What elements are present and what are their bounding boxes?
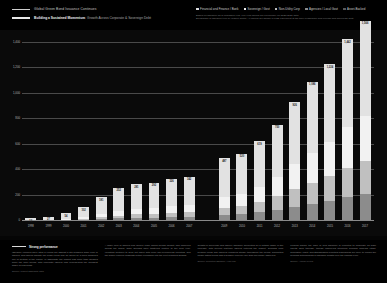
- chart-bar[interactable]: 12: [25, 218, 36, 220]
- chart-bar-segment: [236, 154, 247, 194]
- chart-bar-slot: 2812004: [128, 42, 146, 220]
- footer-column-1: A wider pool of issuers and deeper order…: [105, 244, 191, 272]
- chart-bar[interactable]: 1,086: [307, 82, 318, 220]
- y-axis-tick-label: 600: [15, 142, 20, 146]
- poster-header: Global Green Bond Issuance Continues Bui…: [0, 0, 387, 30]
- x-axis-tick-label: 2012: [274, 225, 280, 228]
- bar-value-label: 326: [169, 180, 173, 183]
- chart-bar[interactable]: 520: [236, 154, 247, 220]
- chart-bar-slot: 6192011: [251, 42, 269, 220]
- chart-bar[interactable]: 1,566: [360, 21, 371, 220]
- chart-bar[interactable]: 926: [289, 102, 300, 220]
- footer-column-2: Growth in sovereign and agency issuance …: [198, 244, 284, 272]
- chart-bar-segment: [219, 158, 230, 197]
- bar-value-label: 102: [81, 209, 85, 212]
- rule-icon: [12, 9, 30, 10]
- header-titles: Global Green Bond Issuance Continues Bui…: [12, 6, 192, 24]
- header-subtitle: Global Green Bond Issuance Continues: [34, 7, 96, 11]
- chart-bar[interactable]: 252: [113, 188, 124, 220]
- chart-bar[interactable]: 487: [219, 158, 230, 220]
- rule-icon: [12, 17, 30, 19]
- chart-bar-segment: [78, 219, 89, 220]
- chart-bar-segment: [254, 141, 265, 186]
- footer-body-text: A wider pool of issuers and deeper order…: [105, 244, 191, 257]
- chart-bar[interactable]: 292: [149, 183, 160, 220]
- chart-bar[interactable]: 750: [272, 125, 283, 220]
- chart-bar[interactable]: 1,442: [342, 39, 353, 220]
- chart-bar-segment: [360, 194, 371, 220]
- x-axis-tick-label: 2011: [257, 225, 263, 228]
- footer-body-text: Looking ahead, the pace of new issuance …: [290, 244, 376, 257]
- chart-bar-segment: [307, 82, 318, 153]
- legend-item-0: Financial and Finance / Bank: [196, 7, 239, 11]
- x-axis-tick-label: 2003: [116, 225, 122, 228]
- bar-value-label: 292: [152, 184, 156, 187]
- header-legend-block: Financial and Finance / BankSovereign / …: [196, 7, 378, 21]
- y-axis-tick-label: 400: [15, 167, 20, 171]
- chart-legend: Financial and Finance / BankSovereign / …: [196, 7, 378, 11]
- chart-bar-slot: 2522003: [110, 42, 128, 220]
- x-axis-tick-label: 2006: [169, 225, 175, 228]
- chart-bar-segment: [360, 116, 371, 161]
- chart-gap: [198, 42, 216, 220]
- chart-bar-segment: [272, 196, 283, 209]
- bar-value-label: 281: [134, 186, 138, 189]
- legend-label: Agencies / Local Govt: [309, 7, 338, 11]
- legend-swatch-icon: [275, 8, 278, 11]
- gridline: [22, 220, 374, 221]
- chart-bar[interactable]: 181: [96, 197, 107, 220]
- chart-bar-segment: [219, 215, 230, 220]
- bar-value-label: 1,086: [309, 83, 316, 86]
- chart-bar-segment: [307, 204, 318, 220]
- chart-bar-segment: [131, 218, 142, 220]
- chart-bar[interactable]: 619: [254, 141, 265, 220]
- y-axis-tick-label: 1,400: [13, 40, 20, 44]
- x-axis-tick-label: 2009: [221, 225, 227, 228]
- bar-value-label: 342: [187, 178, 191, 181]
- chart-bar-segment: [272, 177, 283, 196]
- page-title-suffix: Growth Across Corporate & Sovereign Debt: [87, 16, 151, 20]
- legend-item-2: Non-Utility Corp: [275, 7, 300, 11]
- x-axis-tick-label: 2016: [344, 225, 350, 228]
- bar-value-label: 1,442: [344, 41, 351, 44]
- footer-source-note: Source: Annual review: [290, 260, 376, 262]
- chart-bar-slot: 3262006: [163, 42, 181, 220]
- y-axis-tick-label: 800: [15, 116, 20, 120]
- chart-bar[interactable]: 27: [43, 217, 54, 220]
- chart-bar-slot: 1812002: [92, 42, 110, 220]
- chart-bar[interactable]: 281: [131, 184, 142, 220]
- chart-bar-segment: [96, 219, 107, 220]
- bar-value-label: 54: [65, 215, 68, 218]
- chart-bar-segment: [166, 217, 177, 220]
- bar-value-label: 750: [275, 126, 279, 129]
- chart-bar-slot: 271999: [40, 42, 58, 220]
- legend-swatch-icon: [305, 8, 308, 11]
- x-axis-tick-label: 2005: [151, 225, 157, 228]
- chart-bar-segment: [219, 208, 230, 215]
- chart-bar[interactable]: 54: [61, 213, 72, 220]
- chart-bar-segment: [342, 127, 353, 167]
- chart-bar-segment: [254, 187, 265, 202]
- chart-bar-segment: [166, 206, 177, 213]
- x-axis-tick-label: 2001: [81, 225, 87, 228]
- chart-bar-segment: [360, 161, 371, 195]
- legend-label: Financial and Finance / Bank: [200, 7, 238, 11]
- chart-bar[interactable]: 342: [184, 177, 195, 220]
- legend-item-4: Asset-Backed: [343, 7, 365, 11]
- bar-value-label: 12: [29, 220, 32, 223]
- chart-bar-slot: 1,0862014: [304, 42, 322, 220]
- chart-bar-segment: [289, 207, 300, 220]
- x-axis-tick-label: 1999: [45, 225, 51, 228]
- chart-bar[interactable]: 326: [166, 179, 177, 220]
- chart-bar[interactable]: 1,224: [324, 64, 335, 220]
- header-notes: Based on issuance as of published year. …: [196, 14, 378, 21]
- chart-bar-slot: 121998: [22, 42, 40, 220]
- chart-bar-segment: [184, 205, 195, 212]
- chart-bar-segment: [360, 21, 371, 116]
- x-axis-tick-label: 2000: [63, 225, 69, 228]
- y-axis-tick-label: 1,000: [13, 91, 20, 95]
- chart-bar[interactable]: 102: [78, 207, 89, 220]
- bar-value-label: 181: [99, 199, 103, 202]
- chart-bar-segment: [324, 142, 335, 176]
- chart-bar-segment: [307, 153, 318, 182]
